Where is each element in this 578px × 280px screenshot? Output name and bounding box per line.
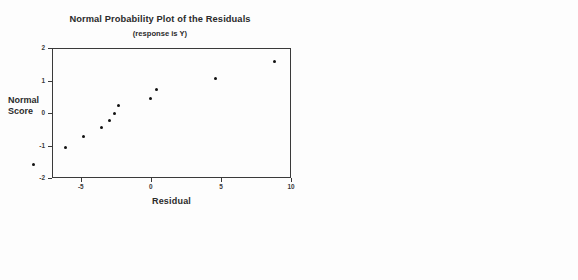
x-tick-label: -5 (71, 183, 91, 190)
y-axis-title-line-1: Normal (8, 95, 30, 106)
data-point (113, 112, 116, 115)
chart-title: Normal Probability Plot of the Residuals (0, 14, 320, 24)
y-tick-mark (48, 113, 52, 114)
y-tick-mark (48, 146, 52, 147)
y-tick-label: -1 (30, 142, 45, 149)
x-tick-label: 5 (211, 183, 231, 190)
data-point (108, 119, 111, 122)
y-axis-title-line-2: Score (8, 106, 30, 117)
y-tick-mark (48, 178, 52, 179)
y-tick-label: 2 (30, 44, 45, 51)
x-tick-mark (221, 178, 222, 182)
plot-frame (52, 48, 291, 178)
y-tick-label: 1 (30, 77, 45, 84)
y-tick-mark (48, 81, 52, 82)
y-tick-label: -2 (30, 174, 45, 181)
x-tick-label: 0 (141, 183, 161, 190)
figure-page: Normal Probability Plot of the Residuals… (0, 0, 578, 280)
y-tick-mark (48, 48, 52, 49)
data-point (64, 146, 67, 149)
x-axis-title: Residual (52, 196, 291, 206)
x-tick-mark (151, 178, 152, 182)
x-tick-label: 10 (281, 183, 301, 190)
x-tick-mark (291, 178, 292, 182)
residual-normal-score-table: Residual e Normal score n -8.39-1.59-6.1… (320, 0, 578, 280)
data-point (32, 163, 35, 166)
y-axis-title: Normal Score (8, 95, 30, 116)
chart-subtitle: (response is Y) (0, 29, 320, 38)
x-tick-mark (81, 178, 82, 182)
normal-probability-plot: Normal Probability Plot of the Residuals… (0, 0, 320, 280)
